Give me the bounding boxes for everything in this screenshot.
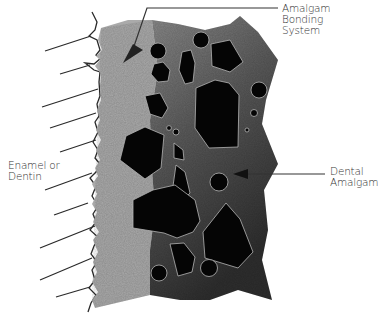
bonding-label-line3: System bbox=[282, 25, 330, 36]
tooth-label-line2: Dentin bbox=[8, 171, 60, 182]
bonding-system-label: Amalgam Bonding System bbox=[282, 3, 330, 36]
amalgam-leader bbox=[233, 169, 325, 179]
enamel-dentin-label: Enamel or Dentin bbox=[8, 160, 60, 182]
amalgam-label-line2: Amalgam bbox=[330, 177, 378, 188]
dental-amalgam-label: Dental Amalgam bbox=[330, 166, 378, 188]
